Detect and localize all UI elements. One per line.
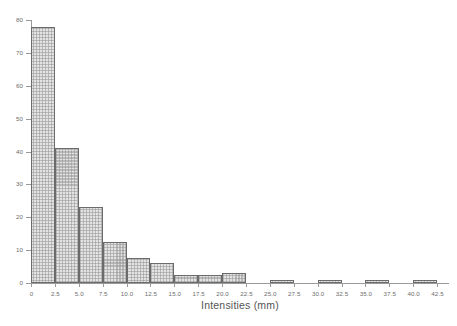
y-axis-tick-label: 20 bbox=[16, 212, 23, 221]
x-axis-tick: 17.5 bbox=[198, 283, 199, 287]
x-axis-tick-label: 27.5 bbox=[288, 289, 300, 298]
x-axis-tick-label: 20.0 bbox=[216, 289, 228, 298]
histogram-bar bbox=[55, 148, 79, 283]
x-axis-tick: 37.5 bbox=[389, 283, 390, 287]
x-axis-tick: 35.0 bbox=[365, 283, 366, 287]
histogram-bar bbox=[174, 275, 198, 283]
histogram-bar bbox=[318, 280, 342, 283]
histogram-bar bbox=[31, 27, 55, 283]
histogram-bar bbox=[365, 280, 389, 283]
x-axis-tick-label: 15.0 bbox=[169, 289, 181, 298]
x-axis-tick-label: 10.0 bbox=[121, 289, 133, 298]
x-axis-tick: 2.5 bbox=[55, 283, 56, 287]
histogram-bar bbox=[222, 273, 246, 283]
y-axis-tick-label: 40 bbox=[16, 147, 23, 156]
x-axis-tick-label: 5.0 bbox=[75, 289, 84, 298]
histogram-bar bbox=[413, 280, 437, 283]
x-axis-tick: 25.0 bbox=[270, 283, 271, 287]
x-axis-tick: 10.0 bbox=[127, 283, 128, 287]
x-axis-tick-label: 2.5 bbox=[51, 289, 60, 298]
histogram-bar bbox=[79, 207, 103, 283]
x-axis-tick: 42.5 bbox=[437, 283, 438, 287]
x-axis-tick-label: 0 bbox=[30, 289, 34, 298]
y-axis-tick-label: 60 bbox=[16, 81, 23, 90]
x-axis-tick: 22.5 bbox=[246, 283, 247, 287]
y-axis-tick-label: 0 bbox=[19, 278, 23, 287]
x-axis-tick-label: 37.5 bbox=[384, 289, 396, 298]
x-axis-spine bbox=[31, 283, 449, 284]
x-axis-tick: 20.0 bbox=[222, 283, 223, 287]
histogram-bar bbox=[127, 258, 151, 283]
x-axis-tick-label: 35.0 bbox=[360, 289, 372, 298]
histogram-bar bbox=[198, 275, 222, 283]
y-axis-tick-label: 50 bbox=[16, 114, 23, 123]
x-axis-tick-label: 40.0 bbox=[407, 289, 419, 298]
histogram-bar bbox=[270, 280, 294, 283]
histogram-figure: 01020304050607080 02.55.07.510.012.515.0… bbox=[0, 0, 457, 326]
y-axis-tick-label: 80 bbox=[16, 15, 23, 24]
histogram-bar bbox=[103, 242, 127, 283]
x-axis-title: Intensities (mm) bbox=[31, 298, 449, 312]
x-axis-tick-label: 25.0 bbox=[264, 289, 276, 298]
x-axis-tick: 12.5 bbox=[150, 283, 151, 287]
histogram-bar bbox=[150, 263, 174, 283]
x-axis-tick: 15.0 bbox=[174, 283, 175, 287]
x-axis-tick: 32.5 bbox=[342, 283, 343, 287]
x-axis-tick-label: 12.5 bbox=[145, 289, 157, 298]
x-axis-tick-label: 7.5 bbox=[99, 289, 108, 298]
y-axis-tick-label: 70 bbox=[16, 48, 23, 57]
x-axis-tick: 5.0 bbox=[79, 283, 80, 287]
x-axis-tick: 30.0 bbox=[318, 283, 319, 287]
plot-area bbox=[31, 20, 449, 283]
x-axis-tick-label: 42.5 bbox=[431, 289, 443, 298]
x-axis-tick: 7.5 bbox=[103, 283, 104, 287]
y-axis-tick-label: 10 bbox=[16, 245, 23, 254]
x-axis-tick-label: 22.5 bbox=[240, 289, 252, 298]
x-axis-tick-label: 32.5 bbox=[336, 289, 348, 298]
x-axis-tick-label: 30.0 bbox=[312, 289, 324, 298]
x-axis-tick: 40.0 bbox=[413, 283, 414, 287]
x-axis-tick: 27.5 bbox=[294, 283, 295, 287]
y-axis-tick-label: 30 bbox=[16, 179, 23, 188]
x-axis-tick: 0 bbox=[31, 283, 32, 287]
x-axis-tick-label: 17.5 bbox=[192, 289, 204, 298]
